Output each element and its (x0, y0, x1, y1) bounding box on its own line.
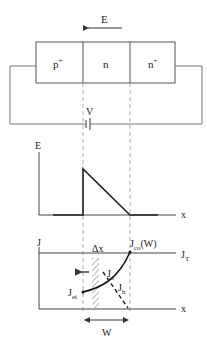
field-arrow-label: E (101, 13, 108, 25)
dx-label: Δx (92, 243, 103, 254)
jco-label: Jco(W) (130, 238, 157, 252)
region-p-plus: p+ (53, 57, 63, 70)
field-plot: E x (35, 140, 186, 220)
field-profile (53, 169, 158, 215)
width-label: W (102, 327, 112, 338)
hatched-strip (92, 258, 99, 308)
region-n: n (103, 58, 109, 70)
field-plot-y-label: E (35, 140, 41, 151)
device-box: p+ n n+ (36, 42, 175, 83)
field-arrow: E (88, 13, 122, 28)
region-n-plus: n+ (148, 57, 158, 70)
battery-icon: V (86, 106, 94, 130)
jt-label: JT (181, 249, 190, 263)
current-plot-y-label: J (37, 237, 41, 248)
circuit-wires (10, 66, 202, 124)
diode-diagram: E p+ n n+ V E x J x (0, 0, 207, 346)
current-plot: J x JT Jco(W) Δx Je Jh Jei W (37, 237, 190, 338)
jei-label: Jei (68, 287, 77, 301)
current-plot-x-label: x (181, 303, 186, 314)
bias-label: V (86, 106, 94, 117)
jh-label: Jh (118, 282, 126, 296)
field-plot-x-label: x (181, 209, 186, 220)
